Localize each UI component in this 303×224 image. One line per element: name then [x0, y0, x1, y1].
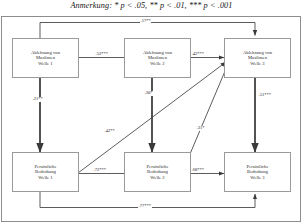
coef-pb1-am3: .42**	[104, 129, 115, 134]
node-bedrohung-welle-3[interactable]: Persönliche Bedrohung Welle 3	[224, 152, 291, 192]
coef-am1-pb1: .21**	[32, 97, 43, 102]
coef-pb1-pb3: .77***	[138, 204, 152, 209]
node-bedrohung-welle-2[interactable]: Persönliche Bedrohung Welle 2	[124, 152, 191, 192]
node-bedrohung-welle-1[interactable]: Persönliche Bedrohung Welle 1	[12, 152, 79, 192]
node-label: Ablehnung von Muslimen Welle 3	[243, 50, 272, 66]
coef-am2-am3: .42***	[191, 52, 205, 57]
node-label: Persönliche Bedrohung Welle 3	[247, 164, 269, 180]
line-am1-am3	[40, 23, 255, 39]
node-ablehnung-welle-1[interactable]: Ablehnung von Muslimen Welle 1	[12, 38, 79, 78]
node-ablehnung-welle-2[interactable]: Ablehnung von Muslimen Welle 2	[124, 38, 191, 78]
node-label: Ablehnung von Muslimen Welle 1	[31, 50, 60, 66]
coef-pb2-pb3: .68***	[191, 168, 205, 173]
coef-am2-pb2: .30*	[144, 91, 153, 96]
coef-am3-pb3: .51***	[258, 93, 272, 98]
node-label: Persönliche Bedrohung Welle 1	[35, 164, 57, 180]
coef-am1-am3: .17**	[140, 19, 151, 24]
coef-am1-am2: .52***	[95, 52, 109, 57]
coef-pb1-pb2: .72***	[93, 168, 107, 173]
figure-root: Anmerkung: * p < .05, ** p < .01, *** p …	[0, 0, 303, 224]
node-ablehnung-welle-3[interactable]: Ablehnung von Muslimen Welle 3	[224, 38, 291, 78]
node-label: Persönliche Bedrohung Welle 2	[147, 164, 169, 180]
node-label: Ablehnung von Muslimen Welle 2	[143, 50, 172, 66]
coef-pb2-am3: .31*	[196, 126, 205, 131]
